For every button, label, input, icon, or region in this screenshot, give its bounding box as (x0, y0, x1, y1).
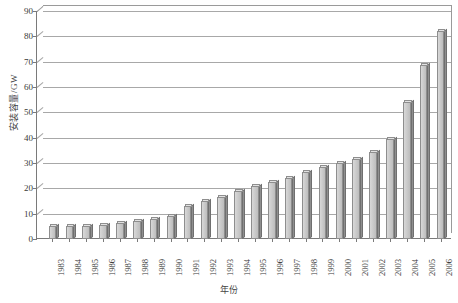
bar (234, 191, 242, 239)
bar (285, 178, 293, 239)
x-axis-tick (137, 239, 138, 242)
bar (369, 152, 377, 239)
bar-side-face (360, 157, 363, 239)
x-axis-tick (289, 239, 290, 242)
bar (319, 167, 327, 239)
x-axis-title: 年份 (0, 283, 458, 296)
bar-side-face (276, 180, 279, 239)
bar (420, 65, 428, 239)
y-axis-tick-label: 10 (3, 209, 33, 219)
bar-front-face (336, 163, 344, 239)
x-axis-tick (238, 239, 239, 242)
x-axis-tick-label: 1984 (73, 259, 83, 276)
bar-front-face (369, 152, 377, 239)
bar-side-face (394, 137, 397, 239)
bar-side-face (208, 199, 211, 239)
x-axis-tick-label: 1996 (275, 259, 285, 276)
x-axis-tick-label: 1991 (191, 259, 201, 276)
x-axis-tick-label: 2001 (360, 259, 370, 276)
y-axis-tick-label: 70 (3, 57, 33, 67)
bar-side-face (157, 216, 160, 239)
bar-side-face (444, 29, 447, 239)
x-axis-tick (69, 239, 70, 242)
bar-front-face (437, 31, 445, 239)
bar (116, 223, 124, 239)
bar-side-face (427, 63, 430, 239)
x-axis-tick (441, 239, 442, 242)
bar-front-face (184, 206, 192, 239)
x-axis-tick (120, 239, 121, 242)
bars-container (36, 11, 451, 239)
bar-side-face (242, 189, 245, 239)
bar-front-face (167, 216, 175, 239)
x-axis-tick-label: 1999 (326, 259, 336, 276)
bar-front-face (268, 182, 276, 239)
bar (99, 225, 107, 239)
bar-side-face (326, 164, 329, 239)
x-axis-tick (272, 239, 273, 242)
bar (49, 226, 57, 239)
bar (150, 219, 158, 239)
bar (336, 163, 344, 239)
x-axis-tick (86, 239, 87, 242)
bar-front-face (285, 178, 293, 239)
bar-side-face (191, 204, 194, 239)
x-axis-tick-label: 1988 (140, 259, 150, 276)
bar (167, 216, 175, 239)
bar-side-face (259, 183, 262, 239)
bar-front-face (302, 172, 310, 239)
bar-front-face (352, 159, 360, 239)
x-axis-tick-label: 2000 (343, 259, 353, 276)
y-axis-tick-label: 80 (3, 31, 33, 41)
bar-side-face (292, 176, 295, 239)
bar (403, 102, 411, 239)
x-axis-tick (390, 239, 391, 242)
x-axis-tick-label: 2004 (410, 259, 420, 276)
x-axis-tick (306, 239, 307, 242)
bar-chart: 安装容量/GW 0102030405060708090 198319841985… (0, 0, 458, 303)
bar-front-face (420, 65, 428, 239)
bar (201, 201, 209, 239)
x-axis-tick (187, 239, 188, 242)
x-axis-tick (103, 239, 104, 242)
x-axis-tick (255, 239, 256, 242)
y-axis-tick-label: 0 (3, 234, 33, 244)
x-axis-tick (424, 239, 425, 242)
x-axis-tick (322, 239, 323, 242)
x-axis-tick-labels: 1983198419851986198719881989199019911992… (36, 240, 451, 280)
x-axis-tick (171, 239, 172, 242)
y-axis-tick-label: 60 (3, 82, 33, 92)
x-axis-tick (52, 239, 53, 242)
x-axis-tick-label: 2002 (377, 259, 387, 276)
x-axis-tick-label: 1986 (107, 259, 117, 276)
x-axis-tick-label: 1983 (56, 259, 66, 276)
bar (217, 197, 225, 239)
bar-side-face (225, 195, 228, 239)
bar (184, 206, 192, 239)
bar-front-face (403, 102, 411, 239)
y-axis-tick-label: 30 (3, 158, 33, 168)
x-axis-tick-label: 1998 (309, 259, 319, 276)
x-axis-tick-label: 1989 (157, 259, 167, 276)
bar-front-face (66, 226, 74, 239)
bar (268, 182, 276, 239)
bar-front-face (201, 201, 209, 239)
bar-front-face (319, 167, 327, 239)
bar-front-face (150, 219, 158, 239)
x-axis-tick (373, 239, 374, 242)
x-axis-tick-label: 1993 (225, 259, 235, 276)
x-axis-tick (221, 239, 222, 242)
bar-side-face (411, 100, 414, 239)
bar (133, 221, 141, 239)
bar-side-face (174, 214, 177, 239)
bar (352, 159, 360, 239)
bar-side-face (343, 161, 346, 239)
x-axis-tick (356, 239, 357, 242)
x-axis-tick-label: 1997 (292, 259, 302, 276)
x-axis-tick-label: 1995 (258, 259, 268, 276)
bar-front-face (251, 186, 259, 239)
bar-front-face (217, 197, 225, 239)
x-axis-tick (407, 239, 408, 242)
bar-front-face (133, 221, 141, 239)
bar (386, 139, 394, 239)
